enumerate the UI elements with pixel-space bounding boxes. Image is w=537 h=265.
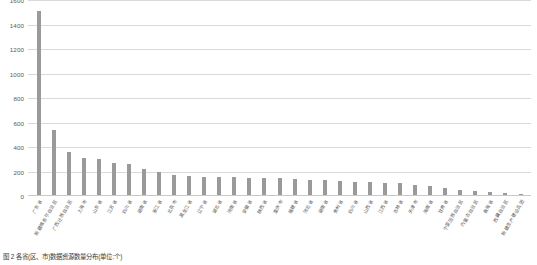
x-axis-tick-label: 北京市 <box>167 199 179 214</box>
label-slot: 青海省 <box>483 198 498 256</box>
x-axis-tick-label: 浙江省 <box>152 199 164 214</box>
bar-slot <box>242 0 257 195</box>
x-axis-tick-label: 福建省 <box>287 199 299 214</box>
bar-slot <box>197 0 212 195</box>
bar[interactable] <box>383 183 387 195</box>
figure-caption: 图 2 各省(区、市)数据资源数量分布(单位:个) <box>3 252 122 261</box>
x-axis-tick-label: 陕西省 <box>257 199 269 214</box>
label-slot: 河南省 <box>227 198 242 256</box>
bar[interactable] <box>488 192 492 195</box>
bar[interactable] <box>127 164 131 195</box>
label-slot: 黑龙江省 <box>182 198 197 256</box>
bar[interactable] <box>262 178 266 195</box>
bar-slot <box>287 0 302 195</box>
bar[interactable] <box>338 181 342 195</box>
bar-slot <box>377 0 392 195</box>
bar[interactable] <box>323 180 327 195</box>
label-slot: 内蒙古自治区 <box>468 198 483 256</box>
label-slot: 天津市 <box>408 198 423 256</box>
bar-slot <box>91 0 106 195</box>
bar-slot <box>152 0 167 195</box>
bar[interactable] <box>503 193 507 195</box>
label-slot: 新疆生产建设兵团 <box>513 198 528 256</box>
bar-slot <box>438 0 453 195</box>
x-axis-tick-label: 湖南省 <box>136 199 148 214</box>
bar[interactable] <box>413 185 417 195</box>
bar[interactable] <box>473 191 477 195</box>
bar[interactable] <box>67 152 71 195</box>
bar[interactable] <box>142 169 146 195</box>
x-axis-tick-label: 江西省 <box>377 199 389 214</box>
bar[interactable] <box>247 178 251 195</box>
x-axis-tick-label: 江苏省 <box>106 199 118 214</box>
x-axis-tick-label: 四川省 <box>121 199 133 214</box>
bar[interactable] <box>232 177 236 195</box>
x-axis-tick-label: 天津市 <box>408 199 420 214</box>
bar[interactable] <box>97 159 101 195</box>
bar-slot <box>61 0 76 195</box>
x-axis-tick-label: 河北省 <box>302 199 314 214</box>
bar[interactable] <box>458 190 462 196</box>
label-slot: 陕西省 <box>257 198 272 256</box>
x-axis-tick-label: 辽宁省 <box>197 199 209 214</box>
label-slot: 北京市 <box>167 198 182 256</box>
bar[interactable] <box>187 176 191 195</box>
label-slot: 山西省 <box>362 198 377 256</box>
bar[interactable] <box>112 163 116 195</box>
label-slot: 海南省 <box>423 198 438 256</box>
bar-slot <box>257 0 272 195</box>
bar-slot <box>106 0 121 195</box>
bar[interactable] <box>398 183 402 195</box>
bar[interactable] <box>293 179 297 195</box>
x-axis-tick-label: 山西省 <box>362 199 374 214</box>
bar-slot <box>393 0 408 195</box>
label-slot: 浙江省 <box>152 198 167 256</box>
bar[interactable] <box>82 158 86 195</box>
y-axis-tick-label: 1000 <box>10 70 24 77</box>
label-slot: 重庆市 <box>272 198 287 256</box>
label-slot: 安徽省 <box>242 198 257 256</box>
x-axis-tick-label: 海南省 <box>423 199 435 214</box>
bar[interactable] <box>157 172 161 195</box>
bar-slot <box>498 0 513 195</box>
label-slot: 江西省 <box>377 198 392 256</box>
x-axis-tick-label: 甘肃省 <box>438 199 450 214</box>
x-axis-tick-label: 河南省 <box>227 199 239 214</box>
bar[interactable] <box>217 177 221 195</box>
bar-slot <box>347 0 362 195</box>
chart-plot-area: 02004006008001000120014001600 广东省新疆维吾尔自治… <box>0 0 537 205</box>
bar-slot <box>453 0 468 195</box>
label-slot: 宁夏回族自治区 <box>453 198 468 256</box>
bar[interactable] <box>308 180 312 195</box>
bar-slot <box>483 0 498 195</box>
bar[interactable] <box>353 182 357 195</box>
x-axis-tick-label: 重庆市 <box>272 199 284 214</box>
bar-slot <box>227 0 242 195</box>
label-slot: 山东省 <box>91 198 106 256</box>
y-axis-tick-label: 1600 <box>10 0 24 4</box>
bar-slot <box>212 0 227 195</box>
bar[interactable] <box>52 130 56 195</box>
bar-slot <box>513 0 528 195</box>
bar[interactable] <box>37 11 41 195</box>
bar-slot <box>272 0 287 195</box>
y-axis-tick-label: 800 <box>13 95 24 102</box>
bar-slot <box>468 0 483 195</box>
label-slot: 湖南省 <box>136 198 151 256</box>
label-slot: 四川省 <box>347 198 362 256</box>
bar[interactable] <box>368 182 372 195</box>
bar[interactable] <box>443 188 447 195</box>
bar[interactable] <box>519 194 523 195</box>
x-axis-tick-label: 湖南省 <box>317 199 329 214</box>
bar-slot <box>76 0 91 195</box>
y-axis-tick-label: 200 <box>13 168 24 175</box>
bar[interactable] <box>428 186 432 195</box>
bar[interactable] <box>202 177 206 195</box>
x-axis-tick-label: 山东省 <box>91 199 103 214</box>
y-axis-tick-label: 0 <box>20 193 24 200</box>
x-axis-tick-label: 四川省 <box>347 199 359 214</box>
bar[interactable] <box>278 178 282 195</box>
axis-baseline <box>28 195 531 196</box>
bar[interactable] <box>172 175 176 195</box>
x-axis-tick-label: 广东省 <box>31 199 43 214</box>
